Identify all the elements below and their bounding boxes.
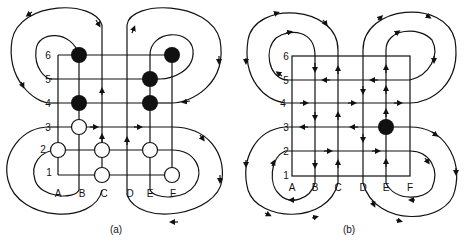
grid-frame-b xyxy=(292,56,410,176)
row-label: 6 xyxy=(45,50,51,61)
row-label: 5 xyxy=(283,75,289,86)
row-label: 5 xyxy=(45,74,51,85)
column-label: F xyxy=(407,182,413,193)
filled-node-F6 xyxy=(164,47,180,63)
open-node-B3 xyxy=(72,120,87,135)
panel-a-caption: (a) xyxy=(110,224,122,235)
column-wires-b xyxy=(315,50,386,183)
row-label: 2 xyxy=(40,144,46,155)
wire-arrows-a xyxy=(90,90,140,145)
row-wires-b xyxy=(285,80,410,151)
filled-node-E3 xyxy=(378,119,394,135)
column-labels-a: A B C D E F xyxy=(55,188,176,199)
row-label: 1 xyxy=(283,170,289,181)
column-label: E xyxy=(383,182,390,193)
column-label: A xyxy=(55,188,62,199)
filled-node-E4 xyxy=(142,95,158,111)
column-label: D xyxy=(359,182,366,193)
nodes-a xyxy=(51,47,181,183)
row-label: 3 xyxy=(283,122,289,133)
filled-node-B4 xyxy=(71,95,87,111)
column-label: C xyxy=(100,188,107,199)
row-label: 3 xyxy=(45,122,51,133)
column-label: B xyxy=(79,188,86,199)
row-label: 4 xyxy=(280,98,286,109)
row-label: 4 xyxy=(45,98,51,109)
column-label: D xyxy=(126,188,133,199)
diagram-canvas: 6 5 4 3 2 1 A B C D E F (a) xyxy=(0,0,464,243)
column-label: B xyxy=(312,182,319,193)
filled-node-E5 xyxy=(142,71,158,87)
open-node-F1 xyxy=(165,168,180,183)
open-node-A2 xyxy=(51,143,66,158)
panel-a: 6 5 4 3 2 1 A B C D E F (a) xyxy=(7,8,223,235)
row-label: 6 xyxy=(283,51,289,62)
flux-loops-a xyxy=(7,8,223,222)
open-node-C1 xyxy=(95,168,110,183)
row-label: 1 xyxy=(46,167,52,178)
row-labels-a: 6 5 4 3 2 1 xyxy=(40,50,52,178)
flux-loops-b xyxy=(246,12,457,221)
open-node-C2 xyxy=(95,143,110,158)
column-label: E xyxy=(147,188,154,199)
column-labels-b: A B C D E F xyxy=(289,182,413,193)
row-label: 2 xyxy=(283,146,289,157)
filled-node-B6 xyxy=(71,47,87,63)
panel-b: 6 5 4 3 2 1 A B C D E F (b) xyxy=(246,12,457,235)
column-label: F xyxy=(170,188,176,199)
open-node-E2 xyxy=(143,143,158,158)
column-label: C xyxy=(334,182,341,193)
row-labels-b: 6 5 4 3 2 1 xyxy=(280,51,289,181)
column-label: A xyxy=(289,182,296,193)
panel-b-caption: (b) xyxy=(343,224,355,235)
